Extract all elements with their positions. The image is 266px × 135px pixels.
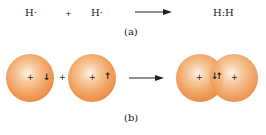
- hydrogen-atom-1: + ↓: [6, 54, 54, 102]
- hydrogen-molecule: + ↓↑ +: [176, 54, 258, 102]
- reactant-h-atom-1: H·: [25, 8, 37, 18]
- spin-up-arrow-icon: ↑: [104, 72, 112, 81]
- reaction-arrow-icon: [135, 8, 173, 16]
- nucleus-icon: +: [89, 74, 96, 82]
- diagram-b: + ↓ + + ↑ + ↓↑ + (b): [0, 40, 266, 135]
- reaction-arrow-icon: [129, 74, 165, 82]
- hydrogen-atom-2: + ↑: [68, 54, 116, 102]
- nucleus-left-icon: +: [196, 74, 203, 82]
- caption-b: (b): [124, 113, 138, 123]
- plus-sign-a: +: [65, 9, 72, 19]
- nucleus-right-icon: +: [231, 74, 238, 82]
- paired-spins-icon: ↓↑: [211, 72, 220, 81]
- reactant-h-atom-2: H·: [91, 8, 103, 18]
- spin-down-arrow-icon: ↓: [43, 73, 51, 82]
- product-h2-molecule: H:H: [213, 8, 234, 18]
- equation-a: H· + H· H:H (a): [0, 0, 266, 40]
- plus-sign-b: +: [59, 74, 66, 82]
- nucleus-icon: +: [27, 74, 34, 82]
- caption-a: (a): [124, 27, 138, 37]
